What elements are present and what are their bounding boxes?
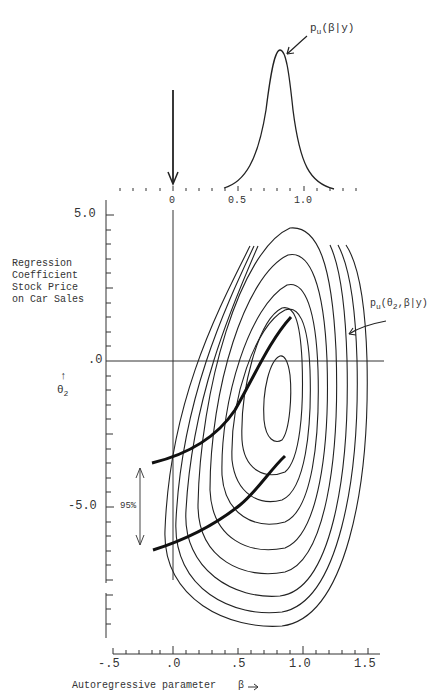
contour-1 [264, 356, 291, 442]
x-tick-1-5: 1.5 [354, 657, 376, 671]
x-axis-label: Autoregressive parameter [72, 680, 216, 692]
top-tick-0: 0 [169, 195, 175, 206]
contour-plot [106, 200, 386, 690]
x-tick-1-0: 1.0 [289, 657, 311, 671]
x-tick-0-5: .5 [231, 657, 245, 671]
interval-double-arrow [136, 468, 144, 545]
top-density-label: pu(β|y) [310, 22, 354, 37]
contour-2 [242, 308, 303, 475]
beta-symbol: β [238, 680, 244, 692]
y-tick-5: 5.0 [74, 207, 96, 221]
x-tick-neg0-5: -.5 [98, 657, 120, 671]
zero-arrow [168, 90, 178, 184]
interval-label: 95% [120, 501, 136, 512]
y-axis [106, 200, 114, 638]
y-tick-0: .0 [88, 353, 102, 367]
x-axis [113, 646, 380, 654]
joint-density-contours [165, 228, 367, 627]
top-density-plot [120, 36, 356, 191]
contour-7 [186, 245, 348, 596]
contour-8 [176, 245, 357, 613]
top-tick-1-0: 1.0 [294, 195, 312, 206]
top-tick-0-5: 0.5 [228, 195, 246, 206]
top-annotation-arrow [287, 36, 307, 54]
chart-canvas [0, 0, 440, 692]
joint-density-label: pu(θ2,β|y) [370, 298, 428, 312]
beta-marginal-density-curve [224, 50, 334, 189]
x-tick-0: .0 [166, 657, 180, 671]
y-tick-neg5: -5.0 [68, 499, 97, 513]
y-axis-label: Regression Coefficient Stock Price on Ca… [12, 258, 84, 306]
theta2-symbol: ↑ θ2 [57, 370, 68, 399]
top-dotted-axis [120, 186, 356, 191]
